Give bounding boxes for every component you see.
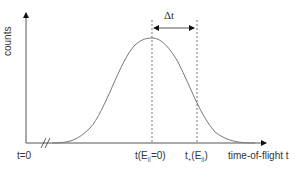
marker-tplus-label: t+(E||) [185, 150, 208, 162]
x-axis-label: time-of-flight t [228, 150, 289, 161]
distribution-curve [52, 38, 255, 143]
delta-t-label: Δt [164, 9, 174, 21]
origin-label: t=0 [17, 150, 31, 161]
marker-peak-label: t(E||=0) [135, 150, 166, 162]
y-axis-label: counts [2, 27, 13, 56]
